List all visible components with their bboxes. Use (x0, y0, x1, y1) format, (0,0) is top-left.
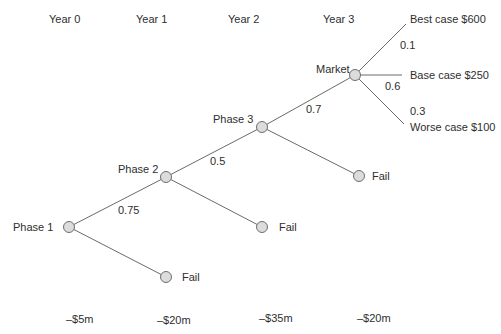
cost-label: –$35m (259, 313, 293, 324)
node-label-phase2: Phase 2 (118, 164, 158, 175)
node-label-fail3: Fail (372, 171, 390, 182)
probability-label: 0.5 (210, 156, 225, 167)
outcome-label: Base case $250 (410, 70, 489, 81)
probability-label: 0.3 (410, 106, 425, 117)
node-label-phase3: Phase 3 (213, 114, 253, 125)
node-label-fail2: Fail (279, 222, 297, 233)
decision-tree (0, 0, 501, 334)
outcome-label: Worse case $100 (410, 122, 495, 133)
node-label-market: Market (316, 64, 350, 75)
probability-label: 0.6 (385, 81, 400, 92)
cost-label: –$5m (66, 314, 94, 325)
year-label: Year 0 (49, 14, 80, 25)
node-label-phase1: Phase 1 (13, 222, 53, 233)
year-label: Year 3 (323, 14, 354, 25)
node-fail3 (354, 171, 365, 182)
tree-nodes (64, 70, 365, 283)
probability-label: 0.1 (400, 40, 415, 51)
tree-edge (262, 127, 359, 176)
year-label: Year 2 (228, 14, 259, 25)
node-phase1 (64, 222, 75, 233)
tree-edge (355, 24, 406, 75)
node-fail2 (257, 222, 268, 233)
node-fail1 (161, 272, 172, 283)
tree-edge (69, 177, 166, 227)
probability-label: 0.7 (306, 104, 321, 115)
cost-label: –$20m (357, 313, 391, 324)
tree-edges (69, 24, 406, 277)
tree-edge (69, 227, 166, 277)
node-phase3 (257, 122, 268, 133)
outcome-label: Best case $600 (410, 14, 486, 25)
node-phase2 (161, 172, 172, 183)
node-label-fail1: Fail (182, 272, 200, 283)
node-market (350, 70, 361, 81)
tree-edge (166, 177, 262, 227)
probability-label: 0.75 (118, 205, 139, 216)
year-label: Year 1 (136, 14, 167, 25)
tree-edge (262, 75, 355, 127)
cost-label: –$20m (157, 315, 191, 326)
tree-edge (166, 127, 262, 177)
